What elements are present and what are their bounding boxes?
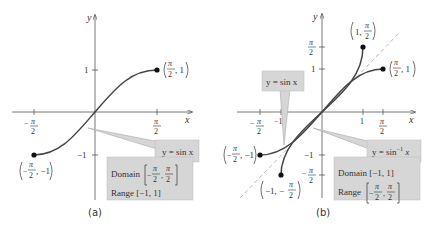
x-tick-pi-2: π 2 [153,117,161,136]
svg-text:π: π [394,58,399,67]
svg-text:2: 2 [29,171,33,180]
svg-text:2: 2 [154,127,158,136]
svg-text:2: 2 [388,193,392,202]
caption-b: (b) [316,207,330,218]
point-label-negpi2-neg1: − π 2 , −1 [20,160,52,180]
svg-text:Range [−1, 1]: Range [−1, 1] [111,188,161,198]
svg-text:π: π [289,180,294,189]
svg-text:, 1: , 1 [175,65,184,75]
point-label-negpi2-neg1: − π 2 , −1 [224,144,256,164]
point-label-pi2-1: π 2 , 1 [390,58,415,78]
svg-text:2: 2 [31,127,35,136]
svg-text:−: − [147,171,152,180]
svg-text:−1, −: −1, − [265,186,284,196]
svg-text:π: π [233,144,238,153]
svg-text:1,: 1, [355,27,362,37]
svg-text:π: π [29,160,34,169]
y-axis-label: y [86,12,92,23]
svg-text:2: 2 [309,176,313,185]
x-tick-neg1: −1 [274,117,283,126]
x-tick-1: 1 [360,117,364,126]
svg-text:−: − [302,169,307,178]
y-tick-pi-2: π 2 [308,38,316,57]
endpoint-dot [278,172,283,177]
point-label-1-pi2: 1, π 2 [351,21,375,41]
svg-text:π: π [154,117,159,126]
svg-text:−: − [23,167,28,176]
x-tick-neg-pi-2: − π 2 [250,117,264,136]
endpoint-dot [154,67,159,72]
panel-b: y x − π 2 −1 1 π 2 π 2 1 [224,11,421,218]
svg-text:, −1: , −1 [240,150,254,160]
svg-text:2: 2 [380,127,384,136]
callout-sin: y = sin x [262,71,304,145]
svg-text:,: , [383,189,385,198]
point-label-pi2-1: π 2 , 1 [164,59,188,79]
endpoint-dot [257,152,262,157]
svg-text:2: 2 [289,191,293,200]
svg-text:π: π [257,117,262,126]
svg-text:2: 2 [394,69,398,78]
caption-a: (a) [88,207,102,218]
svg-text:2: 2 [168,70,172,79]
point-label-neg1-negpi2: −1, − π 2 [261,180,300,200]
svg-text:Domain: Domain [111,169,140,179]
endpoint-dot [31,152,36,157]
svg-text:π: π [168,59,173,68]
y-axis-label: y [312,11,318,22]
svg-text:y = sin−1 x: y = sin−1 x [372,146,409,157]
y-tick-neg1: −1 [77,150,87,160]
info-box-b: Domain [−1, 1] Range − π 2 , π 2 [334,157,420,203]
endpoint-dot [360,44,365,49]
panel-a: y x − π 2 π 2 1 −1 π 2 , 1 [12,12,199,218]
y-tick-1: 1 [84,65,89,75]
x-axis-label: x [408,114,414,125]
figure: y x − π 2 π 2 1 −1 π 2 , 1 [0,0,433,229]
svg-text:π: π [31,117,36,126]
svg-text:−: − [227,151,232,160]
svg-text:π: π [380,117,385,126]
svg-text:,: , [161,171,163,180]
endpoint-dot [380,66,385,71]
svg-text:2: 2 [375,193,379,202]
x-axis-label: x [184,114,190,125]
svg-text:y = sin x: y = sin x [162,147,194,157]
svg-text:2: 2 [309,48,313,57]
svg-text:, 1: , 1 [401,64,410,74]
info-box-a: Domain − π 2 , π 2 Range [−1, 1] [107,157,193,200]
svg-text:π: π [309,166,314,175]
svg-text:2: 2 [233,155,237,164]
svg-text:y = sin x: y = sin x [266,77,298,87]
svg-text:Domain [−1, 1]: Domain [−1, 1] [338,168,394,178]
svg-text:2: 2 [166,175,170,184]
x-tick-pi-2: π 2 [379,117,387,136]
y-tick-1: 1 [311,64,316,74]
y-tick-neg-pi-2: − π 2 [302,166,316,185]
svg-text:2: 2 [153,175,157,184]
svg-text:2: 2 [365,32,369,41]
svg-text:π: π [309,38,314,47]
svg-text:−: − [24,119,29,128]
svg-text:−: − [250,119,255,128]
y-tick-neg1: −1 [304,150,314,160]
svg-text:, −1: , −1 [36,166,50,176]
svg-text:Range: Range [338,187,361,197]
x-tick-neg-pi-2: − π 2 [24,117,38,136]
svg-text:2: 2 [257,127,261,136]
svg-text:π: π [365,21,370,30]
svg-text:−: − [369,189,374,198]
